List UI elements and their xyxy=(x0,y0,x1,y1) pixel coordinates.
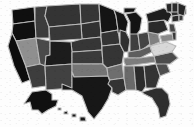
state-KS[interactable] xyxy=(72,50,103,64)
state-NH[interactable] xyxy=(172,3,178,12)
state-HI-island-2 xyxy=(64,111,68,114)
state-MT[interactable] xyxy=(45,4,81,27)
state-HI-island-3 xyxy=(72,114,76,117)
state-SD[interactable] xyxy=(81,21,101,39)
state-OK[interactable] xyxy=(72,64,108,77)
state-WY[interactable] xyxy=(49,24,82,41)
state-IA[interactable] xyxy=(101,30,120,46)
state-DE[interactable] xyxy=(172,32,176,40)
state-HI-island-4 xyxy=(80,117,86,121)
us-map-svg xyxy=(0,0,194,127)
state-HI-island-1 xyxy=(58,108,61,110)
us-choropleth-map xyxy=(0,0,194,127)
state-shapes xyxy=(8,2,186,121)
state-VT[interactable] xyxy=(166,3,172,12)
